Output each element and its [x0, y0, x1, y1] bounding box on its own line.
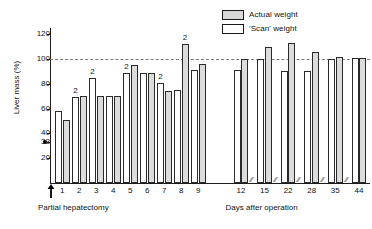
- axis-break-mark-icon: //: [273, 176, 277, 183]
- y-tick-mark: [47, 142, 50, 143]
- partial-hepatectomy-caption: Partial hepatectomy: [38, 203, 109, 212]
- x-axis-line: [50, 183, 370, 184]
- bar-scan-weight: [191, 70, 198, 183]
- x-tick-35: 35: [322, 186, 349, 195]
- reference-line-100-percent: [50, 59, 370, 60]
- x-tick-44: 44: [346, 186, 372, 195]
- bar-actual-weight: [80, 96, 87, 183]
- chart-legend: Actual weight 'Scan' weight: [222, 8, 350, 36]
- x-axis-title: Days after operation: [226, 203, 298, 212]
- bar-scan-weight: [234, 70, 241, 183]
- legend-item-actual-weight: Actual weight: [222, 8, 350, 21]
- y-tick-mark: [47, 109, 50, 110]
- y-tick-mark: [47, 84, 50, 85]
- axis-break-mark-icon: //: [320, 176, 324, 183]
- bar-actual-weight: [241, 59, 248, 183]
- y-tick-mark: [47, 34, 50, 35]
- sample-count-annotation: 2: [119, 62, 134, 71]
- axis-break-mark-icon: //: [343, 176, 347, 183]
- bar-scan-weight: [304, 71, 311, 183]
- bar-scan-weight: [281, 71, 288, 183]
- bar-actual-weight: [199, 64, 206, 183]
- bar-actual-weight: [288, 43, 295, 183]
- bar-actual-weight: [182, 44, 189, 183]
- x-tick-22: 22: [275, 186, 302, 195]
- bar-scan-weight: [140, 73, 147, 183]
- sample-count-annotation: 2: [153, 72, 168, 81]
- y-axis-line: [50, 28, 51, 183]
- bar-actual-weight: [114, 96, 121, 183]
- bar-scan-weight: [123, 73, 130, 183]
- y-tick-mark: [47, 158, 50, 159]
- bar-scan-weight: [157, 83, 164, 183]
- bar-actual-weight: [359, 58, 366, 183]
- bar-actual-weight: [148, 73, 155, 183]
- bar-scan-weight: [89, 78, 96, 183]
- x-tick-9: 9: [185, 186, 212, 195]
- bar-scan-weight: [72, 97, 79, 183]
- y-axis-tick-labels: 120 100 80 60 40 33 20: [22, 0, 50, 229]
- legend-label-actual-weight: Actual weight: [249, 10, 298, 19]
- bar-actual-weight: [336, 57, 343, 183]
- x-tick-15: 15: [251, 186, 278, 195]
- axis-break-mark-icon: //: [296, 176, 300, 183]
- sample-count-annotation: 2: [85, 67, 100, 76]
- legend-label-scan-weight: 'Scan' weight: [249, 24, 297, 33]
- sample-count-annotation: 2: [178, 33, 193, 42]
- legend-item-scan-weight: 'Scan' weight: [222, 22, 350, 35]
- y-axis-title: Liver mass (%): [12, 46, 21, 130]
- legend-swatch-scan-weight-icon: [222, 24, 244, 34]
- bar-scan-weight: [55, 111, 62, 183]
- bar-scan-weight: [352, 58, 359, 183]
- x-tick-28: 28: [298, 186, 325, 195]
- x-tick-12: 12: [228, 186, 255, 195]
- bar-actual-weight: [131, 65, 138, 183]
- y-tick-mark: [47, 133, 50, 134]
- bar-actual-weight: [165, 91, 172, 183]
- bar-scan-weight: [257, 59, 264, 183]
- bar-scan-weight: [106, 96, 113, 183]
- bar-actual-weight: [265, 47, 272, 183]
- bar-scan-weight: [328, 59, 335, 183]
- legend-swatch-actual-weight-icon: [222, 10, 244, 20]
- bar-actual-weight: [97, 96, 104, 183]
- partial-hepatectomy-arrow-icon: [47, 184, 55, 202]
- bar-actual-weight: [63, 120, 70, 183]
- bar-actual-weight: [312, 52, 319, 183]
- bar-scan-weight: [174, 90, 181, 183]
- sample-count-annotation: 2: [68, 86, 83, 95]
- axis-break-mark-icon: //: [249, 176, 253, 183]
